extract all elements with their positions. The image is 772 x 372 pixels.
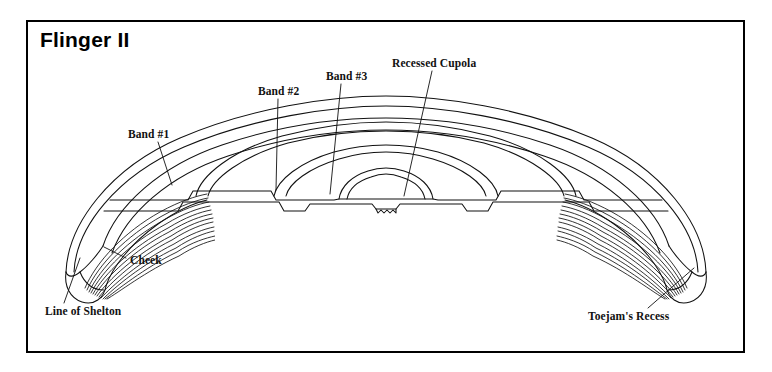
label-cheek: Cheek [130, 254, 162, 266]
band-1-arc [103, 118, 669, 253]
label-toejams-recess: Toejam's Recess [588, 310, 669, 322]
label-recessed-cupola: Recessed Cupola [392, 57, 476, 69]
label-band-2: Band #2 [258, 85, 299, 97]
label-band-1: Band #1 [128, 128, 169, 140]
band-2-arc [196, 122, 576, 196]
base-step-profile-upper [110, 191, 662, 200]
label-band-3: Band #3 [326, 70, 367, 82]
cupola-recess-notch [376, 209, 396, 213]
illustration-page: Flinger II [0, 0, 772, 372]
leader-band1 [158, 142, 172, 185]
band-3-arc [274, 145, 498, 196]
recessed-cupola [339, 168, 433, 199]
leader-band3 [330, 84, 341, 194]
leader-band2 [276, 99, 278, 190]
label-line-of-shelton: Line of Shelton [45, 305, 121, 317]
left-wing-hatching [85, 194, 215, 299]
right-wing-hatching [557, 194, 687, 299]
